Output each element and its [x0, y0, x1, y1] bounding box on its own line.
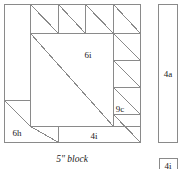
bottom-left-unit-diagonal: [31, 127, 59, 143]
hst-diagonal-top-3: [86, 5, 114, 34]
hst-diagonal-top-4: [114, 5, 141, 34]
patch-label-4i: 4i: [90, 131, 98, 141]
hst-diagonal-right-1: [114, 34, 141, 61]
patch-label-6i: 6i: [84, 50, 92, 60]
main-block-labels: 6i 9c 6h 4i: [13, 50, 125, 141]
centre-large-diagonal: [31, 34, 114, 127]
main-block-group: [5, 5, 141, 143]
side-strip-label: 4a: [164, 69, 173, 79]
left-corner-diagonal: [5, 101, 31, 127]
hst-diagonal-right-2: [114, 61, 141, 88]
patch-label-6h: 6h: [13, 128, 23, 138]
corner-square-label: 4i: [164, 161, 172, 169]
hst-diagonal-right-4: [114, 115, 141, 143]
hst-diagonal-top-1: [31, 5, 59, 34]
quilt-block-diagram: 6i 9c 6h 4i 4a 4i 5" block: [0, 0, 181, 169]
patch-label-9c: 9c: [116, 104, 125, 114]
hst-diagonal-top-2: [59, 5, 86, 34]
figure-canvas: 6i 9c 6h 4i 4a 4i 5" block: [0, 0, 181, 169]
figure-caption: 5" block: [56, 154, 88, 164]
